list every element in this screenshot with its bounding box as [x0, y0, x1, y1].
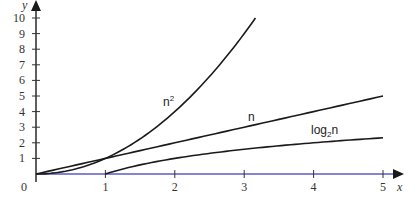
y-axis-arrow-icon: [31, 0, 41, 11]
x-axis: x: [36, 169, 404, 194]
label-log2n: log2n: [311, 123, 338, 139]
x-tick-label: 3: [241, 180, 247, 194]
y-tick-label: 5: [19, 89, 25, 103]
x-tick-label: 5: [380, 180, 386, 194]
x-tick-label: 0: [21, 180, 27, 194]
y-tick-label: 1: [19, 151, 25, 165]
label-n-squared: n2: [163, 94, 175, 109]
y-tick-label: 2: [19, 136, 25, 150]
x-tick-label: 1: [102, 180, 108, 194]
x-tick-label: 2: [172, 180, 178, 194]
y-tick-label: 7: [19, 58, 25, 72]
x-tick-label: 4: [311, 180, 317, 194]
x-axis-arrow-icon: [393, 169, 404, 179]
y-tick-label: 8: [19, 42, 25, 56]
y-tick-label: 4: [19, 105, 25, 119]
y-tick-label: 10: [13, 11, 25, 25]
y-tick-label: 9: [19, 27, 25, 41]
curves: [36, 18, 383, 174]
y-tick-label: 3: [19, 120, 25, 134]
curve-n-squared: [36, 18, 255, 174]
complexity-chart: x y 012345 12345678910 n2 n log2n: [0, 0, 418, 206]
y-tick-label: 6: [19, 73, 25, 87]
curve-log2n: [105, 138, 383, 174]
curve-labels: n2 n log2n: [163, 94, 338, 139]
label-n: n: [248, 110, 255, 124]
x-axis-label: x: [396, 180, 403, 194]
